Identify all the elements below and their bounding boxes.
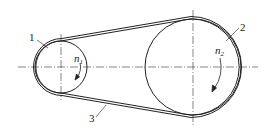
belt-drive-diagram: 1 2 3 n1 n2 — [0, 0, 267, 133]
label-speed-small: n1 — [74, 52, 83, 66]
label-large-pulley: 2 — [240, 21, 246, 33]
label-belt: 3 — [89, 112, 95, 124]
label-small-pulley: 1 — [29, 31, 35, 43]
rotation-arrow-large — [212, 58, 221, 92]
label-speed-large: n2 — [215, 44, 225, 58]
